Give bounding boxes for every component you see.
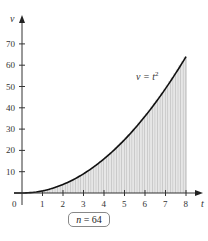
y-tick-label: 50 [6, 82, 16, 92]
riemann-rectangle [150, 106, 153, 193]
riemann-rectangle [148, 110, 151, 193]
riemann-rectangle [125, 137, 128, 193]
riemann-rectangle [166, 85, 169, 193]
origin-label: 0 [12, 199, 17, 209]
riemann-rectangle [176, 69, 179, 193]
y-axis-label: v [10, 13, 15, 24]
riemann-rectangle [153, 103, 156, 193]
riemann-rectangle [137, 123, 140, 193]
riemann-rectangle [117, 145, 120, 193]
riemann-rectangle [142, 116, 145, 193]
riemann-rectangle [171, 77, 174, 193]
x-tick-label: 2 [61, 199, 66, 209]
x-tick-label: 6 [143, 199, 148, 209]
riemann-rectangle [86, 171, 89, 193]
riemann-rectangle [107, 155, 110, 193]
x-tick-label: 5 [122, 199, 127, 209]
riemann-rectangle [73, 178, 76, 193]
riemann-rectangle [104, 157, 107, 193]
riemann-rectangle [130, 131, 133, 193]
riemann-rectangles [22, 57, 186, 193]
riemann-rectangle [160, 92, 163, 193]
riemann-rectangle [101, 159, 104, 193]
riemann-rectangle [158, 96, 161, 193]
riemann-rectangle [119, 142, 122, 193]
curve-label: v = t2 [136, 70, 159, 82]
riemann-rectangle [109, 152, 112, 193]
x-tick-label: 1 [40, 199, 45, 209]
riemann-rectangle [89, 169, 92, 193]
x-axis-arrow-icon [195, 190, 203, 196]
riemann-rectangle [168, 81, 171, 193]
riemann-rectangle [122, 140, 125, 193]
riemann-rectangle [76, 177, 79, 193]
riemann-rectangle [145, 113, 148, 193]
riemann-rectangle [178, 65, 181, 193]
riemann-rectangle [99, 161, 102, 193]
riemann-rectangle [114, 147, 117, 193]
riemann-rectangle [84, 172, 87, 193]
riemann-sum-chart: 12345678 10203040506070 0 t v v = t2 [0, 0, 208, 241]
y-tick-label: 60 [6, 60, 16, 70]
riemann-rectangle [94, 165, 97, 193]
riemann-rectangle [135, 126, 138, 193]
riemann-rectangle [163, 89, 166, 193]
y-tick-label: 20 [6, 145, 16, 155]
riemann-rectangle [183, 57, 186, 193]
riemann-rectangle [155, 100, 158, 193]
n-annotation-box: n = 64 [68, 212, 110, 227]
x-axis-label: t [201, 198, 204, 209]
y-tick-label: 70 [6, 39, 16, 49]
x-tick-label: 4 [102, 199, 107, 209]
riemann-rectangle [91, 167, 94, 193]
riemann-rectangle [140, 119, 143, 193]
x-tick-label: 7 [163, 199, 168, 209]
riemann-rectangle [71, 180, 74, 193]
riemann-rectangle [173, 73, 176, 193]
y-tick-label: 30 [6, 124, 16, 134]
n-value: = 64 [81, 214, 102, 225]
x-tick-label: 8 [184, 199, 189, 209]
riemann-rectangle [96, 163, 99, 193]
riemann-rectangle [78, 175, 81, 193]
y-tick-label: 40 [6, 103, 16, 113]
riemann-rectangle [112, 150, 115, 193]
riemann-rectangle [181, 61, 184, 193]
y-axis-arrow-icon [19, 15, 25, 23]
x-tick-label: 3 [81, 199, 86, 209]
riemann-rectangle [132, 129, 135, 193]
y-tick-label: 10 [6, 167, 16, 177]
riemann-rectangle [127, 134, 130, 193]
